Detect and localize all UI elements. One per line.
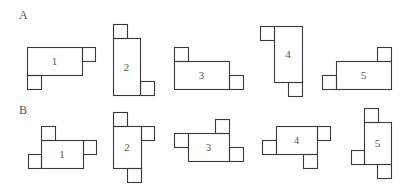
attached-square (216, 120, 230, 134)
piece-number: 3 (206, 141, 212, 153)
piece-number: 4 (294, 134, 300, 146)
piece-number: 3 (199, 69, 205, 81)
attached-square (175, 48, 189, 62)
attached-square (114, 25, 128, 39)
attached-square (261, 27, 275, 41)
piece-b-4: 4 (263, 127, 331, 169)
attached-square (318, 127, 331, 141)
attached-square (175, 134, 189, 148)
attached-square (289, 83, 303, 97)
net-diagram: A B 1234512345 (0, 0, 411, 192)
attached-square (142, 127, 155, 141)
piece-number: 4 (285, 48, 291, 60)
attached-square (84, 141, 97, 155)
attached-square (42, 127, 56, 141)
piece-number: 1 (52, 55, 58, 67)
piece-number: 2 (124, 141, 130, 153)
piece-a-1: 1 (28, 48, 96, 90)
piece-number: 2 (124, 61, 130, 73)
attached-square (28, 76, 42, 90)
piece-a-3: 3 (175, 48, 244, 90)
attached-square (378, 165, 392, 179)
attached-square (304, 155, 318, 169)
attached-square (230, 76, 244, 90)
attached-square (230, 148, 244, 162)
attached-square (29, 155, 42, 169)
attached-square (378, 48, 392, 62)
piece-b-3: 3 (175, 120, 244, 162)
piece-b-5: 5 (352, 109, 392, 179)
attached-square (114, 113, 128, 127)
piece-a-2: 2 (114, 25, 155, 96)
piece-number: 1 (59, 148, 65, 160)
piece-a-4: 4 (261, 27, 303, 97)
attached-square (352, 151, 365, 165)
attached-square (128, 169, 142, 183)
attached-square (141, 82, 155, 96)
attached-square (83, 48, 96, 62)
attached-square (365, 109, 379, 123)
attached-square (323, 76, 337, 90)
piece-number: 5 (375, 137, 381, 149)
piece-number: 5 (361, 69, 367, 81)
piece-b-2: 2 (114, 113, 155, 183)
attached-square (263, 141, 277, 155)
piece-a-5: 5 (323, 48, 392, 90)
piece-b-1: 1 (29, 127, 97, 169)
pieces-layer: 1234512345 (0, 0, 411, 192)
